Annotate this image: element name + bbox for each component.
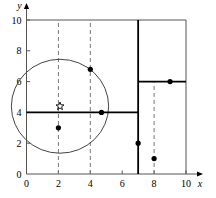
data-point-point-c[interactable] <box>56 125 61 130</box>
y-tick-label-2: 2 <box>17 138 22 149</box>
data-point-point-b[interactable] <box>99 110 104 115</box>
data-point-point-e[interactable] <box>152 156 157 161</box>
y-tick-label-8: 8 <box>17 45 22 56</box>
star-marker[interactable] <box>56 102 64 110</box>
x-tick-label-8: 8 <box>152 178 157 189</box>
data-point-point-f[interactable] <box>167 79 172 84</box>
x-tick-label-6: 6 <box>120 178 125 189</box>
x-tick-label-2: 2 <box>56 178 61 189</box>
x-axis-label: x <box>197 178 203 189</box>
x-tick-label-10: 10 <box>181 178 191 189</box>
y-tick-label-10: 10 <box>12 15 22 26</box>
x-axis-arrowhead <box>197 171 203 176</box>
region-circle <box>11 59 108 153</box>
y-axis-label: y <box>16 0 22 11</box>
x-tick-label-0: 0 <box>24 178 29 189</box>
y-axis-arrowhead <box>24 3 29 9</box>
scatter-plot: 02468100246810xy <box>0 0 216 198</box>
y-tick-label-0: 0 <box>17 169 22 180</box>
figure-container: 02468100246810xy <box>0 0 216 198</box>
x-tick-label-4: 4 <box>88 178 93 189</box>
y-tick-label-4: 4 <box>17 107 22 118</box>
data-point-point-d[interactable] <box>136 141 141 146</box>
data-point-point-a[interactable] <box>88 67 93 72</box>
